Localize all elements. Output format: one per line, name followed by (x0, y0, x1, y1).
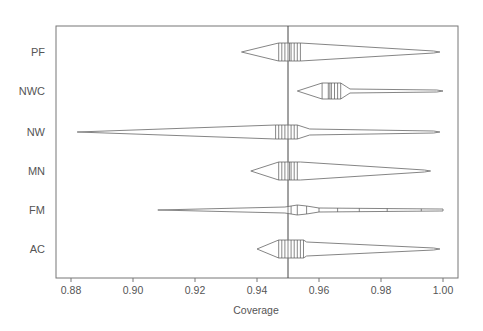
y-label-pf: PF (31, 46, 45, 58)
x-axis-label: Coverage (233, 304, 279, 316)
x-axis: 0.880.900.920.940.960.981.00 (61, 278, 454, 296)
violin-mn (251, 162, 431, 180)
y-label-nwc: NWC (19, 85, 45, 97)
y-label-mn: MN (28, 165, 45, 177)
violin-pf (242, 43, 440, 61)
violin-fm (158, 205, 443, 215)
x-tick-label: 0.94 (247, 284, 268, 296)
violin-ac (257, 240, 440, 258)
x-tick-label: 1.00 (433, 284, 454, 296)
x-tick-label: 0.96 (309, 284, 330, 296)
plot-border (56, 26, 458, 278)
x-tick-label: 0.92 (185, 284, 206, 296)
violins (77, 43, 443, 258)
violin-nw (77, 125, 440, 139)
violin-nwc (297, 83, 443, 99)
y-axis-labels: PFNWCNWMNFMAC (19, 46, 46, 255)
violin-chart: PFNWCNWMNFMAC 0.880.900.920.940.960.981.… (0, 0, 483, 331)
y-label-fm: FM (29, 204, 45, 216)
y-label-nw: NW (27, 126, 46, 138)
x-tick-label: 0.98 (371, 284, 392, 296)
y-label-ac: AC (30, 243, 45, 255)
x-tick-label: 0.88 (61, 284, 82, 296)
plot-frame (56, 26, 458, 278)
x-tick-label: 0.90 (123, 284, 144, 296)
